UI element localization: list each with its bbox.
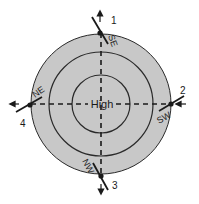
center-label: High xyxy=(91,98,114,110)
point-number: 2 xyxy=(180,85,186,96)
station-dot-icon xyxy=(27,102,32,107)
pressure-system-diagram: High 1 SE 2 SW 3 NW xyxy=(0,0,199,204)
point-number: 1 xyxy=(111,15,117,26)
station-dot-icon xyxy=(97,30,102,35)
station-dot-icon xyxy=(168,101,173,106)
station-dot-icon xyxy=(98,173,103,178)
point-number: 3 xyxy=(112,180,118,191)
point-number: 4 xyxy=(20,118,26,129)
